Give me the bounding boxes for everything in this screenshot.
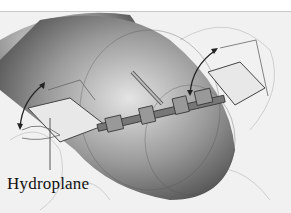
illustration-frame: Hydroplane	[0, 0, 291, 213]
hydroplane-label: Hydroplane	[7, 174, 89, 194]
top-margin	[0, 0, 291, 12]
